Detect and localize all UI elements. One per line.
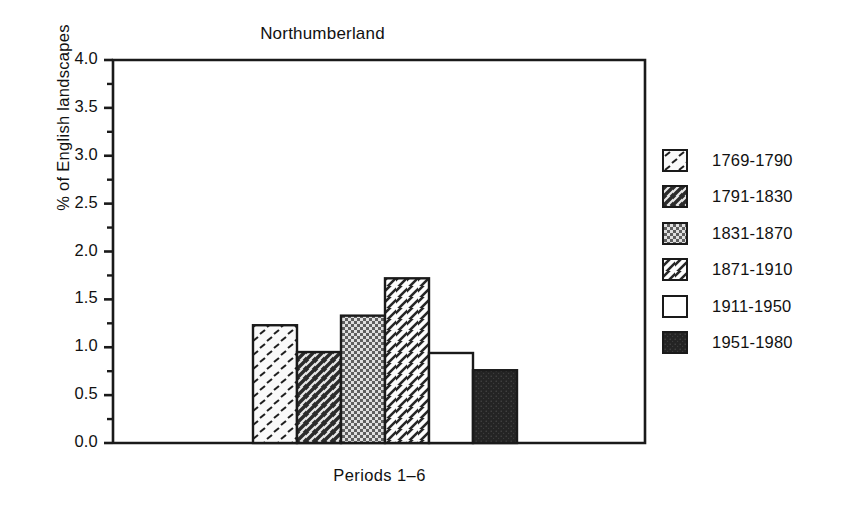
bar	[473, 370, 517, 443]
legend-item: 1871-1910	[662, 252, 793, 289]
legend-swatch-icon	[662, 185, 688, 208]
legend-item: 1791-1830	[662, 179, 793, 216]
legend-swatch-icon	[662, 258, 688, 281]
bar	[385, 278, 429, 443]
legend-swatch-icon	[662, 295, 688, 318]
bar	[341, 316, 385, 443]
legend-label: 1831-1870	[712, 224, 793, 243]
legend-item: 1769-1790	[662, 142, 793, 179]
legend-item: 1951-1980	[662, 325, 793, 362]
legend-label: 1951-1980	[712, 333, 793, 352]
legend-item: 1911-1950	[662, 288, 793, 325]
legend-item: 1831-1870	[662, 215, 793, 252]
legend-label: 1791-1830	[712, 187, 793, 206]
bar	[253, 325, 297, 443]
chart-figure: Northumberland % of English landscapes P…	[0, 0, 851, 513]
legend-swatch-icon	[662, 149, 688, 172]
bar	[297, 352, 341, 443]
legend-swatch-icon	[662, 222, 688, 245]
bar	[429, 353, 473, 443]
chart-legend: 1769-17901791-18301831-18701871-19101911…	[662, 142, 793, 361]
legend-label: 1871-1910	[712, 260, 793, 279]
legend-label: 1911-1950	[712, 297, 791, 316]
legend-swatch-icon	[662, 331, 688, 354]
legend-label: 1769-1790	[712, 151, 793, 170]
